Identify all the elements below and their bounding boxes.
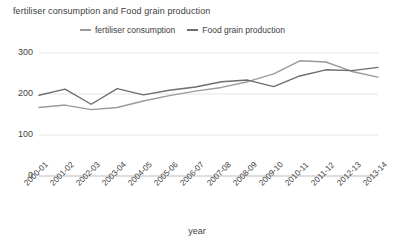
- chart-plot-svg: [0, 0, 394, 246]
- series-lines: [39, 61, 378, 110]
- plot-area: 0100200300 2000-012001-022002-032003-042…: [0, 0, 394, 246]
- y-tick-label: 300: [7, 48, 33, 57]
- series-line-fertiliser-consumption: [39, 61, 378, 110]
- x-axis-title: year: [0, 226, 394, 236]
- series-line-food-grain-production: [39, 67, 378, 104]
- chart-container: fertiliser consumption and Food grain pr…: [0, 0, 394, 246]
- y-tick-label: 200: [7, 89, 33, 98]
- gridlines: [39, 53, 378, 176]
- y-tick-label: 100: [7, 130, 33, 139]
